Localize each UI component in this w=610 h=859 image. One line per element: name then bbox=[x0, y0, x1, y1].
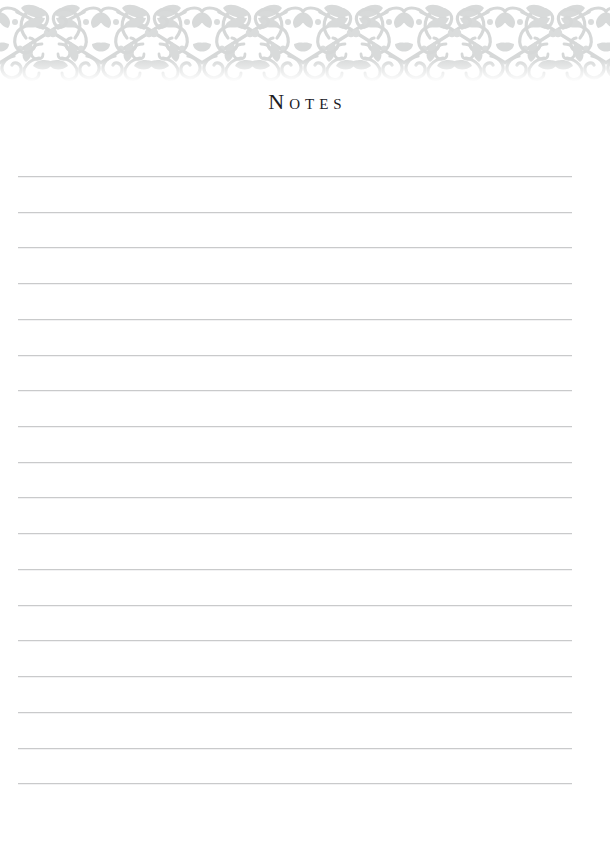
note-line-14[interactable] bbox=[18, 640, 572, 641]
notes-page: Notes bbox=[0, 0, 610, 859]
ruled-lines-area[interactable] bbox=[0, 0, 610, 859]
note-line-10[interactable] bbox=[18, 497, 572, 498]
note-line-4[interactable] bbox=[18, 283, 572, 284]
note-line-7[interactable] bbox=[18, 390, 572, 391]
note-line-8[interactable] bbox=[18, 426, 572, 427]
note-line-16[interactable] bbox=[18, 712, 572, 713]
note-line-12[interactable] bbox=[18, 569, 572, 570]
note-line-17[interactable] bbox=[18, 748, 572, 749]
note-line-2[interactable] bbox=[18, 212, 572, 213]
note-line-18[interactable] bbox=[18, 783, 572, 784]
note-line-13[interactable] bbox=[18, 605, 572, 606]
note-line-5[interactable] bbox=[18, 319, 572, 320]
note-line-6[interactable] bbox=[18, 355, 572, 356]
note-line-11[interactable] bbox=[18, 533, 572, 534]
note-line-3[interactable] bbox=[18, 247, 572, 248]
note-line-15[interactable] bbox=[18, 676, 572, 677]
note-line-1[interactable] bbox=[18, 176, 572, 177]
note-line-9[interactable] bbox=[18, 462, 572, 463]
